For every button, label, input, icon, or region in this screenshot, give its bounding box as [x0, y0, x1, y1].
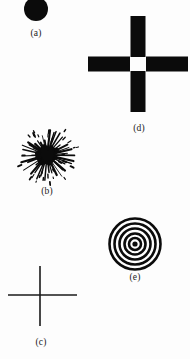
- starburst-icon: [14, 126, 80, 184]
- panel-a-filled-disc: [24, 0, 48, 21]
- panel-b-starburst: [14, 126, 80, 184]
- panel-b-label: (b): [27, 187, 67, 197]
- panel-d-thick-cross: [88, 16, 188, 112]
- thin-cross-icon: [4, 262, 84, 330]
- panel-c-label: (c): [21, 338, 61, 348]
- concentric-rings-icon: [108, 217, 162, 271]
- panel-e-label: (e): [115, 273, 155, 283]
- panel-a-label: (a): [16, 29, 56, 39]
- thick-cross-icon: [88, 16, 188, 112]
- filled-disc-icon: [24, 0, 48, 21]
- panel-d-label: (d): [119, 124, 159, 134]
- panel-c-thin-cross: [4, 262, 84, 330]
- figure-sheet: (a) (d) (b) (e) (c): [0, 0, 190, 359]
- panel-e-concentric-rings: [108, 217, 162, 271]
